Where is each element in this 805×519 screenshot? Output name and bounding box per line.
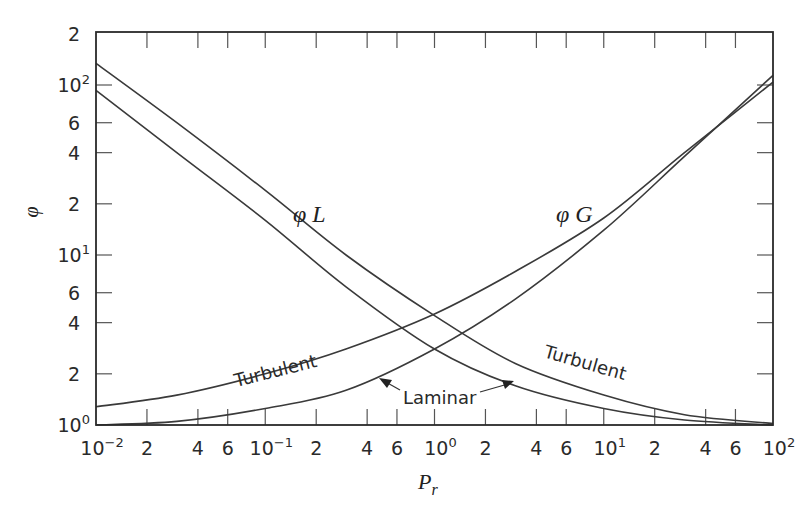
x-tick-label: 4 <box>361 437 373 459</box>
log-log-chart: 10−224610−124610024610124610210024610124… <box>0 0 805 519</box>
y-tick-label: 100 <box>58 412 90 436</box>
y-tick-label: 2 <box>68 23 80 45</box>
x-tick-label: 101 <box>594 435 626 459</box>
x-tick-label: 6 <box>222 437 234 459</box>
y-tick-label: 6 <box>68 112 80 134</box>
x-axis-label: Pr <box>417 469 438 498</box>
phiG-label: φ G <box>556 201 593 227</box>
y-tick-label: 2 <box>68 193 80 215</box>
axis-ticks <box>96 32 773 425</box>
x-tick-label: 4 <box>700 437 712 459</box>
y-tick-label: 2 <box>68 363 80 385</box>
x-tick-label: 6 <box>391 437 403 459</box>
y-tick-label: 102 <box>58 72 90 96</box>
curve-g-turbulent <box>96 82 773 407</box>
x-tick-label: 2 <box>141 437 153 459</box>
arrow-head-left-icon <box>379 378 392 388</box>
phiL-label: φ L <box>293 201 326 227</box>
x-tick-label: 10−2 <box>80 435 123 459</box>
turbulent-gas-label: Turbulent <box>231 350 319 391</box>
y-tick-label: 4 <box>68 312 80 334</box>
laminar-label: Laminar <box>403 387 477 408</box>
y-axis-label: φ <box>20 206 43 217</box>
x-tick-label: 6 <box>729 437 741 459</box>
plot-frame <box>96 32 773 425</box>
curve-l-turbulent <box>96 63 773 423</box>
curves <box>96 63 773 425</box>
y-tick-label: 101 <box>58 242 90 266</box>
x-tick-label: 2 <box>310 437 322 459</box>
x-tick-label: 100 <box>424 435 456 459</box>
x-tick-label: 2 <box>649 437 661 459</box>
x-tick-label: 4 <box>530 437 542 459</box>
x-tick-label: 2 <box>479 437 491 459</box>
x-tick-label: 6 <box>560 437 572 459</box>
curve-l-laminar <box>96 90 773 425</box>
y-tick-label: 4 <box>68 142 80 164</box>
x-tick-label: 4 <box>192 437 204 459</box>
x-tick-label: 102 <box>763 435 795 459</box>
y-tick-label: 6 <box>68 282 80 304</box>
curve-g-laminar <box>96 75 773 425</box>
turbulent-liquid-label: Turbulent <box>541 340 629 384</box>
x-tick-label: 10−1 <box>250 435 293 459</box>
